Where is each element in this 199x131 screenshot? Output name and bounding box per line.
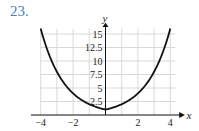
svg-text:5: 5 xyxy=(98,83,103,94)
svg-text:x: x xyxy=(186,109,192,121)
svg-text:4: 4 xyxy=(168,117,173,128)
chart: xy −4−2242.557.51012.515 xyxy=(0,0,199,131)
tick-labels: −4−2242.557.51012.515 xyxy=(35,29,172,129)
svg-text:2: 2 xyxy=(135,117,140,128)
svg-text:12.5: 12.5 xyxy=(85,42,103,53)
svg-text:15: 15 xyxy=(93,29,103,40)
svg-text:7.5: 7.5 xyxy=(90,69,103,80)
svg-text:−4: −4 xyxy=(35,117,46,128)
svg-text:−2: −2 xyxy=(68,117,79,128)
svg-text:10: 10 xyxy=(93,56,103,67)
svg-text:y: y xyxy=(102,12,108,24)
